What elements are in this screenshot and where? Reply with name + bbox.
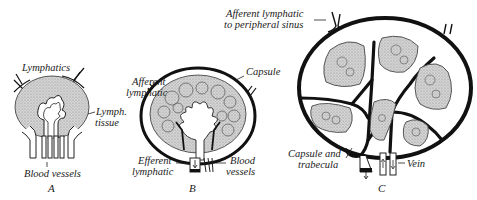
label-afferent-c-1: Afferent lymphatic: [226, 8, 303, 19]
label-efferent-b-2: lymphatic: [132, 166, 173, 177]
label-afferent-b-2: lymphatic: [126, 87, 167, 98]
label-blood-b-2: vessels: [226, 166, 255, 177]
label-efferent-b-1: Efferent: [138, 155, 171, 166]
label-afferent-b-1: Afferent: [132, 76, 165, 87]
figure-letter-a: A: [48, 182, 55, 194]
label-capsule-trabecula-2: trabecula: [298, 159, 338, 170]
panel-a-drawing: [14, 68, 95, 167]
label-afferent-c-2: to peripheral sinus: [224, 19, 303, 30]
label-vein: Vein: [407, 158, 425, 169]
label-capsule-b: Capsule: [246, 66, 280, 77]
label-capsule-trabecula-1: Capsule and: [288, 148, 341, 159]
figure-letter-b: B: [189, 182, 196, 194]
label-lymphatics: Lymphatics: [22, 62, 70, 73]
label-lymph-tissue-2: tissue: [95, 117, 119, 128]
label-blood-b-1: Blood: [230, 155, 255, 166]
label-lymph-tissue-1: Lymph.: [96, 106, 127, 117]
lymph-node-diagram: Lymphatics Lymph. tissue Blood vessels A…: [0, 0, 477, 200]
figure-letter-c: C: [378, 182, 385, 194]
label-blood-vessels-a: Blood vessels: [24, 168, 81, 179]
